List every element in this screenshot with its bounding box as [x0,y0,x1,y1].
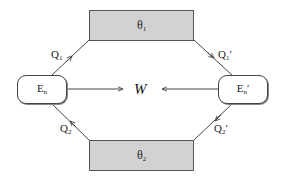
reservoir-theta1: θ1 [89,10,194,41]
reservoir-theta2-label: θ2 [137,149,146,163]
flow-arrow-q1-prime [207,52,214,58]
engine-left-label: En [37,83,47,96]
engine-right: En′ [218,75,268,104]
reservoir-theta2: θ2 [89,140,194,171]
work-label: W [134,81,147,98]
flow-arrow-q2-prime [215,115,221,121]
flow-label-q1-prime: Q1′ [218,49,232,62]
engine-right-label: En′ [237,83,250,96]
engine-left: En [17,75,67,104]
reservoir-theta1-label: θ1 [137,19,146,33]
flow-label-q2: Q2 [60,123,71,136]
flow-arrow-q1 [66,56,72,62]
flow-label-q2-prime: Q2′ [214,123,228,136]
flow-label-q1: Q1 [51,49,62,62]
